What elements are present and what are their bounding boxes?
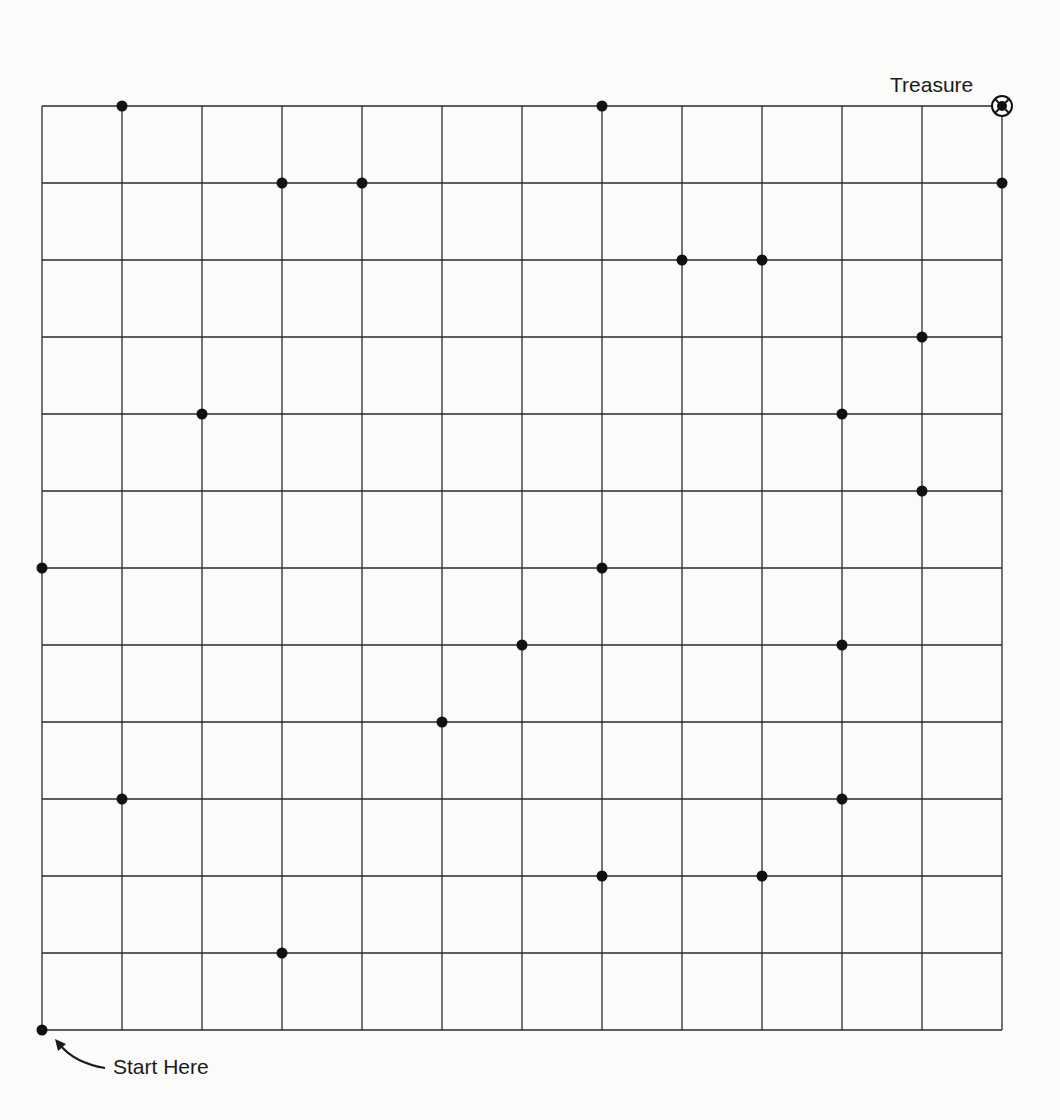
grid-dot: [757, 255, 768, 266]
grid-dot: [837, 409, 848, 420]
treasure-label: Treasure: [890, 73, 973, 97]
grid-dot: [837, 794, 848, 805]
grid-dot: [597, 563, 608, 574]
grid-dot: [117, 101, 128, 112]
grid-dot: [37, 1025, 48, 1036]
treasure-grid-diagram: [0, 0, 1060, 1120]
target-circle-icon: [992, 96, 1012, 116]
grid-dot: [677, 255, 688, 266]
start-here-label: Start Here: [113, 1055, 209, 1079]
grid-dot: [517, 640, 528, 651]
curved-arrow-icon: [55, 1039, 105, 1068]
grid-dot: [757, 871, 768, 882]
grid-dot: [997, 178, 1008, 189]
grid-dot: [277, 178, 288, 189]
grid-dot: [117, 794, 128, 805]
grid-dot: [197, 409, 208, 420]
grid-dot: [597, 101, 608, 112]
grid-dot: [277, 948, 288, 959]
grid-dot: [837, 640, 848, 651]
grid-dot: [437, 717, 448, 728]
grid-dot: [357, 178, 368, 189]
grid-dot: [917, 486, 928, 497]
grid-dot: [597, 871, 608, 882]
grid-dot: [37, 563, 48, 574]
grid-lines: [42, 106, 1002, 1030]
grid-dot: [917, 332, 928, 343]
